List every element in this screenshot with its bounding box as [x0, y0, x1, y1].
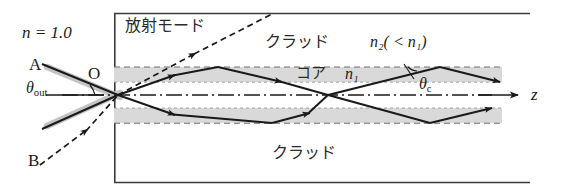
axis-z-label: z [531, 86, 538, 103]
ray-b-dashed [40, 95, 118, 165]
incident-ray-glow [47, 67, 120, 126]
theta-c-subscript: c [427, 83, 432, 94]
theta-out-label: θout [26, 80, 47, 99]
incident-ray-a [42, 64, 118, 95]
cladding-bottom-label: クラッド [272, 145, 336, 161]
theta-out-symbol: θ [26, 79, 34, 96]
radiation-mode-label: 放射モード [125, 18, 205, 34]
cladding-index-label: n₂( < n₁) [370, 34, 427, 50]
cladding-index-text: n₂( < n₁) [370, 33, 427, 50]
outside-index-label: n = 1.0 [22, 24, 72, 41]
diagram-canvas [0, 0, 565, 194]
theta-c-symbol: θ [419, 75, 427, 92]
core-index-label: n₁ [345, 66, 359, 82]
core-label: コア [296, 66, 326, 81]
ray-a-label: A [29, 56, 41, 73]
incident-ray-lower [42, 95, 118, 129]
point-o-label: O [88, 65, 100, 82]
cladding-top-label: クラッド [265, 34, 329, 50]
optical-fiber-diagram: n = 1.0 放射モード クラッド n₂( < n₁) コア n₁ クラッド … [0, 0, 565, 194]
theta-c-label: θc [419, 76, 432, 95]
ray-b-label: B [28, 152, 39, 169]
theta-out-subscript: out [34, 87, 47, 98]
